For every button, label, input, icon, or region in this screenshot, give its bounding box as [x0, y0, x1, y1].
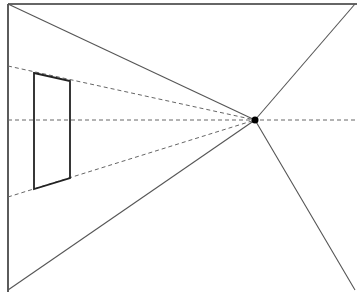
perspective-diagram [0, 0, 357, 292]
background [0, 0, 357, 292]
diagram-svg [0, 0, 357, 292]
vanishing-point [252, 117, 259, 124]
